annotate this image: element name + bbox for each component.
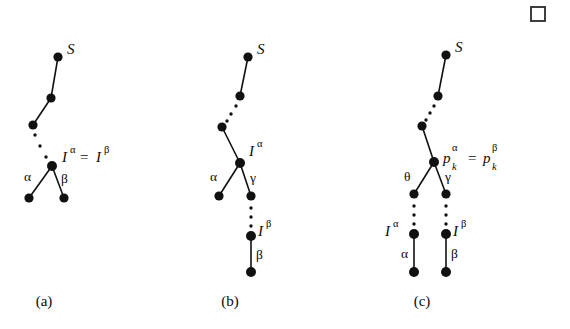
- node-branch-point: [429, 157, 439, 167]
- panel-b: S α γ β I α I β (b): [210, 41, 271, 310]
- label-edge-gamma: γ: [444, 169, 451, 184]
- edge-root-to-chain1: [240, 57, 248, 96]
- node-gamma: [246, 191, 255, 200]
- node-branch-point: [47, 161, 57, 171]
- path-dot: [234, 104, 237, 107]
- node-theta: [409, 189, 418, 198]
- label-i-beta: I β: [257, 218, 271, 239]
- label-edge-beta: β: [451, 246, 458, 261]
- node-root-s: [441, 50, 450, 59]
- edge-branch-to-leaf-alpha: [29, 166, 52, 198]
- node-chain-2: [417, 121, 426, 130]
- edge-root-to-chain1: [51, 57, 58, 98]
- node-i-beta: [246, 231, 256, 241]
- equation-operator: =: [468, 150, 476, 166]
- equation-rhs-base: I: [95, 149, 102, 165]
- equation-rhs-subscript: k: [492, 161, 497, 172]
- label-i-beta-base: I: [452, 223, 459, 239]
- path-dot: [229, 112, 232, 115]
- node-chain-1: [235, 91, 244, 100]
- equation-lhs-base: I: [61, 149, 68, 165]
- equation-lhs-base: p: [442, 150, 451, 166]
- panel-a: S α β I α = I β (a): [24, 41, 109, 310]
- caption-panel-c: (c): [414, 293, 431, 310]
- label-i-alpha-base: I: [384, 223, 391, 239]
- equation-rhs-base: p: [482, 150, 491, 166]
- label-i-beta-superscript: β: [461, 218, 466, 229]
- label-edge-gamma: γ: [249, 170, 256, 185]
- equation-pk-alpha-equals-pk-beta: p α k = p β k: [442, 142, 497, 172]
- label-root-s: S: [455, 39, 463, 55]
- path-dot: [44, 155, 47, 158]
- node-branch-point: [235, 158, 245, 168]
- label-edge-alpha: α: [210, 169, 217, 184]
- equation-rhs-superscript: β: [492, 142, 497, 153]
- edge-chain1-to-chain2: [33, 98, 51, 125]
- equation-i-alpha-equals-i-beta: I α = I β: [61, 144, 109, 165]
- path-dot: [412, 204, 415, 207]
- path-dot: [249, 224, 252, 227]
- path-dot: [412, 222, 415, 225]
- path-dot: [249, 206, 252, 209]
- equation-lhs-superscript: α: [452, 142, 458, 153]
- path-dot: [249, 215, 252, 218]
- label-edge-theta: θ: [404, 169, 410, 184]
- path-dot: [428, 111, 431, 114]
- node-i-beta: [441, 229, 451, 239]
- node-leaf-alpha: [24, 193, 33, 202]
- panel-c: S θ γ α β I α I β p α k = p β k: [384, 39, 497, 310]
- path-dot: [412, 213, 415, 216]
- path-dot: [444, 204, 447, 207]
- node-gamma: [441, 189, 450, 198]
- node-chain-2: [217, 122, 226, 131]
- path-dot: [33, 133, 36, 136]
- node-chain-1: [46, 93, 55, 102]
- label-i-alpha-base: I: [248, 143, 255, 159]
- end-of-proof-square-icon: [531, 7, 545, 21]
- node-root-s: [53, 52, 62, 61]
- equation-lhs-subscript: k: [452, 161, 457, 172]
- label-edge-beta: β: [256, 247, 263, 262]
- edge-chain2-to-branch: [422, 126, 434, 162]
- path-dot: [424, 118, 427, 121]
- path-dot: [432, 104, 435, 107]
- node-leaf-beta: [246, 267, 256, 277]
- label-edge-alpha: α: [24, 169, 31, 184]
- label-edge-beta: β: [61, 171, 68, 186]
- caption-panel-a: (a): [36, 293, 53, 310]
- label-i-alpha: I α: [248, 138, 263, 159]
- label-i-beta-superscript: β: [266, 218, 271, 229]
- node-i-alpha: [409, 229, 419, 239]
- edge-root-to-chain1: [438, 55, 446, 96]
- edge-branch-to-leaf-alpha: [219, 163, 240, 196]
- panel-b-edges: [219, 57, 251, 272]
- tree-diagram-figure: S α β I α = I β (a): [0, 0, 570, 329]
- node-leaf-alpha: [409, 267, 419, 277]
- figure-container: S α β I α = I β (a): [0, 0, 570, 329]
- path-dot: [444, 222, 447, 225]
- label-i-beta: I β: [452, 218, 466, 239]
- label-i-alpha-superscript: α: [257, 138, 263, 149]
- edge-branch-to-theta: [414, 162, 434, 194]
- label-edge-alpha: α: [401, 246, 408, 261]
- equation-rhs-superscript: β: [104, 144, 109, 155]
- label-i-beta-base: I: [257, 223, 264, 239]
- label-root-s: S: [67, 41, 75, 57]
- label-i-alpha: I α: [384, 218, 399, 239]
- path-dot: [225, 119, 228, 122]
- panel-b-nodes: [214, 52, 256, 277]
- edge-chain2-to-branch: [222, 127, 240, 163]
- equation-operator: =: [80, 149, 88, 165]
- caption-panel-b: (b): [221, 293, 239, 310]
- node-leaf-beta: [441, 267, 451, 277]
- node-leaf-alpha: [214, 191, 223, 200]
- label-i-alpha-superscript: α: [393, 218, 399, 229]
- path-dot: [444, 213, 447, 216]
- node-chain-1: [433, 91, 442, 100]
- node-root-s: [243, 52, 252, 61]
- panel-a-dotted-path: [33, 133, 47, 158]
- equation-lhs-superscript: α: [70, 144, 76, 155]
- node-chain-2: [28, 120, 37, 129]
- label-root-s: S: [257, 41, 265, 57]
- path-dot: [38, 144, 41, 147]
